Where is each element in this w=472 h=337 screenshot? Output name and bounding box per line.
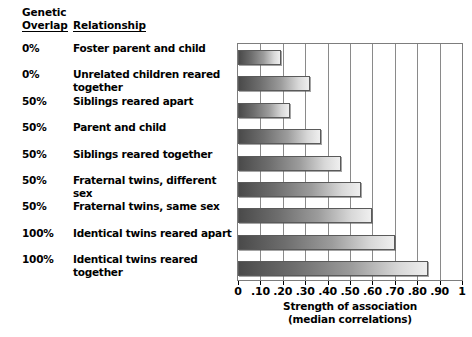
cell-relationship: Unrelated children reared together [73,68,233,93]
table-row: 50%Siblings reared apart [22,95,232,121]
column-header-relationship: Relationship [73,19,146,32]
plot-area [237,43,463,281]
x-axis-tick-label: 1 [458,285,465,298]
table-header-row: Genetic Overlap Relationship [22,6,232,40]
cell-relationship: Fraternal twins, different sex [73,174,233,199]
x-axis-tick-label: .20 [273,285,292,298]
table-row: 100%Identical twins reared together [22,253,232,279]
table-row: 100%Identical twins reared apart [22,227,232,253]
x-axis-tick-label: .80 [408,285,427,298]
x-axis-tick-label: 0 [234,285,241,298]
x-axis-tick-labels: 0.10.20.30.40.50.60.70.80.901 [237,285,463,299]
cell-genetic-overlap: 50% [22,95,47,108]
x-axis-tick-label: .50 [341,285,360,298]
bar [238,208,372,223]
bar [238,103,290,118]
cell-genetic-overlap: 100% [22,227,54,240]
cell-genetic-overlap: 50% [22,174,47,187]
x-axis-title: Strength of association (median correlat… [237,300,463,325]
cell-genetic-overlap: 50% [22,200,47,213]
relationship-label-table: Genetic Overlap Relationship 0%Foster pa… [22,6,232,40]
x-axis-tick-label: .10 [251,285,270,298]
cell-relationship: Fraternal twins, same sex [73,200,233,213]
bar [238,129,321,144]
bar [238,235,395,250]
table-row: 0%Foster parent and child [22,42,232,68]
x-axis-tick-label: .40 [318,285,337,298]
cell-relationship: Identical twins reared apart [73,227,233,240]
table-row: 0%Unrelated children reared together [22,68,232,94]
table-row: 50%Siblings reared together [22,148,232,174]
bar [238,182,361,197]
column-header-genetic: Genetic [22,6,66,18]
table-row: 50%Fraternal twins, different sex [22,174,232,200]
cell-genetic-overlap: 0% [22,68,39,81]
column-header-overlap: Overlap [22,19,68,32]
table-row: 50%Parent and child [22,121,232,147]
bar [238,76,310,91]
x-axis-tick-label: .30 [296,285,315,298]
cell-genetic-overlap: 0% [22,42,39,55]
x-axis-tick-label: .90 [430,285,449,298]
cell-relationship: Identical twins reared together [73,253,233,278]
table-row: 50%Fraternal twins, same sex [22,200,232,226]
cell-relationship: Parent and child [73,121,233,134]
cell-genetic-overlap: 50% [22,121,47,134]
cell-relationship: Siblings reared apart [73,95,233,108]
x-axis-title-line1: Strength of association [283,300,417,312]
x-axis-title-line2: (median correlations) [237,313,463,326]
cell-relationship: Foster parent and child [73,42,233,55]
bar [238,156,341,171]
bars-layer [238,44,462,280]
cell-genetic-overlap: 100% [22,253,54,266]
x-axis-tick-label: .70 [385,285,404,298]
cell-relationship: Siblings reared together [73,148,233,161]
bar [238,261,428,276]
x-axis-tick-label: .60 [363,285,382,298]
cell-genetic-overlap: 50% [22,148,47,161]
bar [238,50,281,65]
chart-figure: Genetic Overlap Relationship 0%Foster pa… [0,0,472,337]
